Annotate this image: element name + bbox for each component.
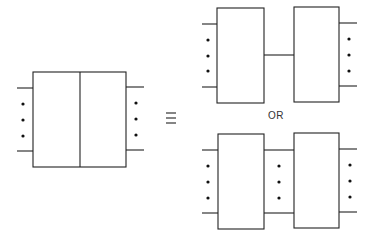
- cascade-single-connection: [202, 7, 357, 103]
- equivalence-sign: [166, 113, 176, 123]
- or-label: OR: [264, 110, 288, 121]
- equivalence-diagram: [0, 0, 377, 246]
- combined-block: [17, 72, 144, 167]
